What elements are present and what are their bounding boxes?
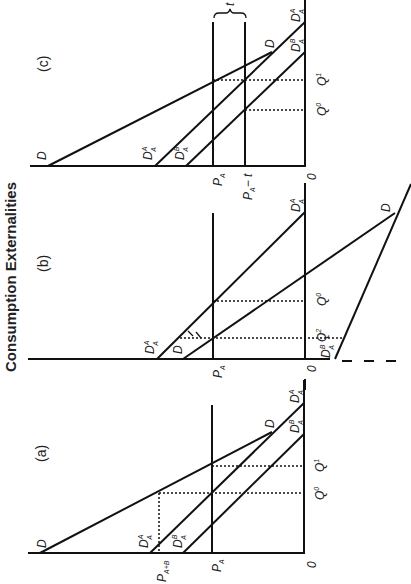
panel-a-curve-D [40, 432, 272, 553]
svg-text:DBA: DBA [171, 534, 187, 548]
svg-text:D: D [35, 539, 49, 548]
figure-title: Consumption Externalities [2, 182, 19, 372]
svg-text:Q1: Q1 [313, 459, 327, 472]
svg-text:Q2: Q2 [315, 329, 329, 342]
panel-c-curve-DAA [155, 22, 305, 166]
panel-c-label-PA: PA [211, 173, 226, 186]
svg-text:Q0: Q0 [315, 293, 329, 306]
panel-b-curve-DAB [335, 184, 411, 359]
panel-b-curve-DAA [157, 212, 305, 359]
svg-text:0: 0 [305, 561, 319, 568]
panel-a-label-DAB-left: DBA [171, 534, 187, 548]
panel-a-label-D-left: D [35, 539, 49, 548]
panel-c-label: (c) [35, 56, 51, 72]
panel-b: (b) DAA DAA D D DBA PA 0 Q0 [28, 183, 411, 390]
svg-text:DBA: DBA [288, 419, 304, 433]
panel-c-label-DAA-left: DAA [141, 146, 157, 160]
svg-text:DBA: DBA [319, 344, 335, 358]
panel-b-tick-mark [188, 331, 193, 336]
panel-a-label-DAB-right: DBA [288, 419, 304, 433]
panel-b-tick-mark [196, 332, 201, 338]
svg-text:Q0: Q0 [315, 103, 329, 116]
panel-c-label-DAB-left: DBA [173, 146, 189, 160]
panel-b-label-D-left: D [171, 345, 185, 354]
panel-a-label-Q1: Q1 [313, 459, 327, 472]
svg-text:DAA: DAA [289, 8, 305, 22]
panel-c-label-D-left: D [35, 151, 49, 160]
panel-a: (a) D D DAA DBA DAA DBA PA+B PA [28, 380, 327, 582]
panel-a-label-DAA-left: DAA [137, 534, 153, 548]
svg-text:DAA: DAA [137, 534, 153, 548]
svg-text:DAA: DAA [143, 340, 159, 354]
svg-text:0: 0 [305, 173, 319, 180]
panel-b-label-origin: 0 [305, 365, 319, 372]
svg-text:DBA: DBA [173, 146, 189, 160]
svg-text:DAA: DAA [289, 198, 305, 212]
svg-text:0: 0 [305, 365, 319, 372]
svg-text:PA: PA [211, 173, 226, 186]
panel-b-label-DAA-left: DAA [143, 340, 159, 354]
svg-text:D: D [263, 39, 277, 48]
panel-c-label-PA-minus-t: PA− t [241, 173, 256, 200]
svg-text:D: D [263, 419, 277, 428]
panel-b-label: (b) [35, 255, 51, 272]
panel-a-label-DAA-right: DAA [288, 389, 304, 403]
panel-c: (c) t D D DAA DBA DAA DBA PA [30, 0, 329, 200]
svg-text:D: D [171, 345, 185, 354]
svg-text:PA: PA [210, 559, 225, 572]
panel-a-label: (a) [33, 445, 49, 462]
svg-text:DBA: DBA [289, 38, 305, 52]
panel-c-label-D-right: D [263, 39, 277, 48]
panel-a-label-origin: 0 [305, 561, 319, 568]
svg-text:D: D [35, 151, 49, 160]
panel-a-curve-DAA [150, 403, 304, 553]
svg-text:Q1: Q1 [315, 73, 329, 86]
panel-c-label-t: t [223, 2, 237, 6]
panel-a-label-D-right: D [263, 419, 277, 428]
svg-text:DAA: DAA [288, 389, 304, 403]
panel-c-label-Q1: Q1 [315, 73, 329, 86]
svg-text:DAA: DAA [141, 146, 157, 160]
panel-c-label-DAA-right: DAA [289, 8, 305, 22]
panel-c-label-origin: 0 [305, 173, 319, 180]
panel-c-label-Q0: Q0 [315, 103, 329, 116]
panel-a-label-PAB: PA+B [155, 560, 170, 582]
svg-text:PA: PA [211, 365, 226, 378]
panel-b-label-PA: PA [211, 365, 226, 378]
svg-text:PA− t: PA− t [241, 173, 256, 200]
panel-b-label-Q0: Q0 [315, 293, 329, 306]
svg-text:PA+B: PA+B [155, 560, 170, 582]
panel-b-label-DAB-lower: DBA [319, 344, 335, 358]
panel-b-label-D-right: D [379, 203, 393, 212]
panel-c-label-DAB-right: DBA [289, 38, 305, 52]
svg-text:Q0: Q0 [313, 487, 327, 500]
panel-a-label-PA: PA [210, 559, 225, 572]
consumption-externalities-diagram: Consumption Externalities (c) t D D DAA … [0, 0, 411, 584]
panel-c-tax-brace [214, 9, 246, 18]
panel-b-curve-D [183, 213, 395, 359]
panel-b-label-DAA-right: DAA [289, 198, 305, 212]
svg-text:D: D [379, 203, 393, 212]
panel-c-curve-D [48, 52, 272, 166]
panel-b-label-Q2: Q2 [315, 329, 329, 342]
panel-a-label-Q0: Q0 [313, 487, 327, 500]
